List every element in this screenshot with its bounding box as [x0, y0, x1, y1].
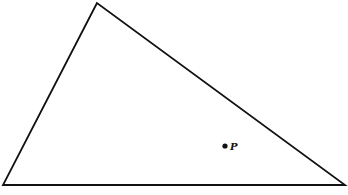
triangle [3, 3, 345, 185]
triangle-diagram: P [0, 0, 348, 195]
point-p-label: P [229, 141, 238, 152]
point-p-dot [222, 143, 227, 148]
